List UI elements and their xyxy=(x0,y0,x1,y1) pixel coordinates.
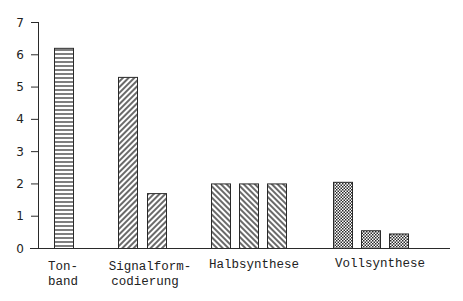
chart-canvas: 01234567 Ton- band Signalform- codierung… xyxy=(0,0,463,301)
bars xyxy=(55,48,409,248)
bar-halbsynthese-2 xyxy=(240,184,259,249)
bar-signalformcodierung-1 xyxy=(119,77,138,248)
category-label-tonband-line1: Ton- xyxy=(48,260,78,274)
bar-vollsynthese-2 xyxy=(362,231,381,249)
category-label-tonband-line2: band xyxy=(48,275,78,289)
y-tick-label: 3 xyxy=(16,145,24,159)
bar-vollsynthese-1 xyxy=(334,182,353,248)
y-tick-label: 7 xyxy=(16,16,24,30)
bar-vollsynthese-3 xyxy=(390,234,409,249)
bar-halbsynthese-3 xyxy=(268,184,287,249)
category-label-halbsynthese: Halbsynthese xyxy=(209,258,299,272)
category-labels: Ton- band Signalform- codierung Halbsynt… xyxy=(48,257,425,289)
y-tick-label: 0 xyxy=(16,242,24,256)
y-ticks: 01234567 xyxy=(16,16,38,256)
y-tick-label: 5 xyxy=(16,80,24,94)
bar-chart: 01234567 Ton- band Signalform- codierung… xyxy=(0,0,463,301)
bar-signalformcodierung-2 xyxy=(148,194,167,249)
y-tick-label: 6 xyxy=(16,48,24,62)
category-label-vollsynthese: Vollsynthese xyxy=(335,257,425,271)
category-label-signalform-line2: codierung xyxy=(111,275,179,289)
y-tick-label: 1 xyxy=(16,209,24,223)
bar-halbsynthese-1 xyxy=(212,184,231,249)
category-label-signalform-line1: Signalform- xyxy=(109,260,192,274)
y-tick-label: 4 xyxy=(16,112,24,126)
y-tick-label: 2 xyxy=(16,177,24,191)
bar-tonband-1 xyxy=(55,48,74,248)
